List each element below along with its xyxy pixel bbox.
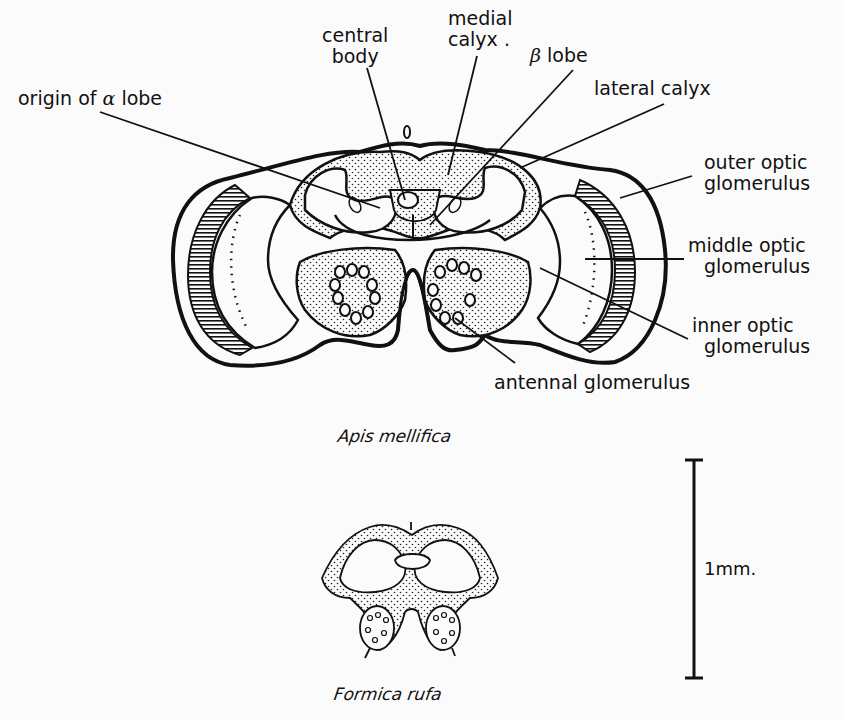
scale-bar-label: 1mm. [704, 558, 756, 579]
label-middle-optic-line1: middle optic [688, 235, 810, 256]
label-outer-optic: outer optic glomerulus [704, 152, 810, 194]
label-beta-lobe-text: lobe [547, 44, 588, 66]
label-medial-calyx-line1: medial [448, 8, 512, 29]
label-central-body: central body [322, 25, 388, 67]
label-middle-optic: middle optic glomerulus [688, 235, 810, 277]
label-outer-optic-line1: outer optic [704, 152, 810, 173]
scale-bar [685, 460, 703, 678]
label-central-body-line2: body [322, 46, 388, 67]
label-outer-optic-line2: glomerulus [704, 173, 810, 194]
label-origin-suffix: lobe [121, 87, 162, 109]
alpha-symbol: α [103, 87, 116, 109]
label-medial-calyx: medial calyx . [448, 8, 512, 50]
label-beta-lobe: β lobe [530, 45, 588, 66]
label-inner-optic-line1: inner optic [692, 315, 810, 336]
label-inner-optic: inner optic glomerulus [692, 315, 810, 357]
label-antennal-glomerulus: antennal glomerulus [494, 372, 690, 393]
label-middle-optic-line2: glomerulus [688, 256, 810, 277]
label-origin-prefix: origin of [18, 87, 96, 109]
label-central-body-line1: central [322, 25, 388, 46]
label-medial-calyx-line2: calyx . [448, 29, 512, 50]
formica-brain [322, 522, 498, 658]
label-inner-optic-line2: glomerulus [692, 336, 810, 357]
label-origin-alpha-lobe: origin of α lobe [18, 88, 162, 109]
species-label-formica: Formica rufa [333, 684, 444, 704]
beta-symbol: β [530, 44, 541, 66]
label-lateral-calyx: lateral calyx [594, 78, 711, 99]
species-label-apis: Apis mellifica [337, 426, 453, 446]
